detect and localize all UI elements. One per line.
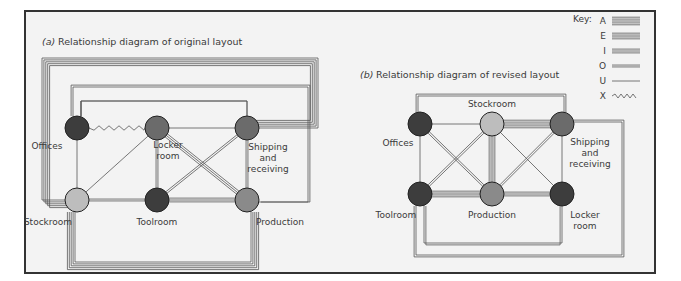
label-line: room [573, 221, 596, 231]
label-revised-stockroom: Stockroom [468, 99, 516, 109]
label-line: Offices [383, 138, 414, 148]
diagram-b-prefix: (b) [360, 69, 373, 80]
key-code-I: I [603, 46, 606, 56]
label-line: Toolroom [136, 217, 178, 227]
diagram-b-title-text: Relationship diagram of revised layout [376, 69, 560, 80]
key-code-U: U [599, 76, 606, 86]
label-line: Locker [570, 210, 600, 220]
node-revised-toolroom [408, 182, 432, 206]
key-code-O: O [599, 61, 606, 71]
label-line: Shipping [248, 142, 287, 152]
label-original-stockroom: Stockroom [24, 217, 72, 227]
node-revised-offices [408, 112, 432, 136]
node-original-offices [65, 116, 89, 140]
node-original-stockroom [65, 188, 89, 212]
label-line: Production [468, 210, 516, 220]
label-original-offices: Offices [32, 141, 63, 151]
label-original-toolroom: Toolroom [136, 217, 178, 227]
figure-canvas: (a) Relationship diagram of original lay… [0, 0, 681, 281]
diagram-a-title: (a) Relationship diagram of original lay… [42, 36, 242, 47]
key-code-X: X [600, 91, 606, 101]
node-revised-production [480, 182, 504, 206]
node-original-production [235, 188, 259, 212]
label-line: Stockroom [24, 217, 72, 227]
node-revised-stockroom [480, 112, 504, 136]
label-original-locker: Lockerroom [153, 140, 183, 161]
label-revised-toolroom: Toolroom [375, 210, 417, 220]
label-revised-locker: Lockerroom [570, 210, 600, 231]
node-original-shipping [235, 116, 259, 140]
label-line: Stockroom [468, 99, 516, 109]
label-line: Locker [153, 140, 183, 150]
node-revised-shipping [550, 112, 574, 136]
label-line: Shipping [570, 137, 609, 147]
label-line: room [156, 151, 179, 161]
label-revised-offices: Offices [383, 138, 414, 148]
relationship-diagram-figure: (a) Relationship diagram of original lay… [0, 0, 681, 281]
label-line: receiving [247, 164, 288, 174]
node-revised-locker [550, 182, 574, 206]
key-code-A: A [600, 16, 607, 26]
diagram-b-title: (b) Relationship diagram of revised layo… [360, 69, 560, 80]
label-line: receiving [569, 159, 610, 169]
label-line: Production [256, 217, 304, 227]
node-original-locker [145, 116, 169, 140]
node-original-toolroom [145, 188, 169, 212]
label-line: and [582, 148, 599, 158]
key-code-E: E [600, 31, 606, 41]
diagram-a-title-text: Relationship diagram of original layout [58, 36, 242, 47]
key-label: Key: [573, 14, 592, 24]
label-line: Offices [32, 141, 63, 151]
label-revised-production: Production [468, 210, 516, 220]
label-line: Toolroom [375, 210, 417, 220]
label-line: and [260, 153, 277, 163]
label-original-production: Production [256, 217, 304, 227]
diagram-a-prefix: (a) [42, 36, 55, 47]
